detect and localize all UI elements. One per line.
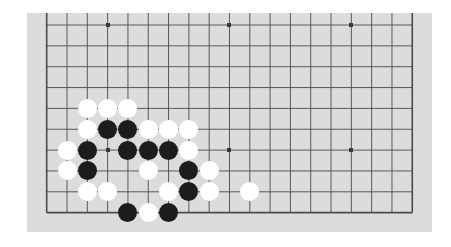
white-stone[interactable] xyxy=(179,141,198,160)
go-board-view xyxy=(0,0,451,247)
white-stone[interactable] xyxy=(78,182,97,201)
star-point xyxy=(349,148,353,152)
white-stone[interactable] xyxy=(159,120,178,139)
black-stone[interactable] xyxy=(118,141,137,160)
white-stone[interactable] xyxy=(78,120,97,139)
white-stone[interactable] xyxy=(139,120,158,139)
white-stone[interactable] xyxy=(200,182,219,201)
star-point xyxy=(106,23,110,27)
white-stone[interactable] xyxy=(58,141,77,160)
white-stone[interactable] xyxy=(200,161,219,180)
white-stone[interactable] xyxy=(78,99,97,118)
black-stone[interactable] xyxy=(98,120,117,139)
white-stone[interactable] xyxy=(179,120,198,139)
star-point xyxy=(227,148,231,152)
black-stone[interactable] xyxy=(78,141,97,160)
star-point xyxy=(106,148,110,152)
black-stone[interactable] xyxy=(139,141,158,160)
white-stone[interactable] xyxy=(98,99,117,118)
star-point xyxy=(349,23,353,27)
white-stone[interactable] xyxy=(139,203,158,222)
white-stone[interactable] xyxy=(58,161,77,180)
go-board[interactable] xyxy=(27,13,432,232)
star-point xyxy=(227,23,231,27)
black-stone[interactable] xyxy=(159,141,178,160)
